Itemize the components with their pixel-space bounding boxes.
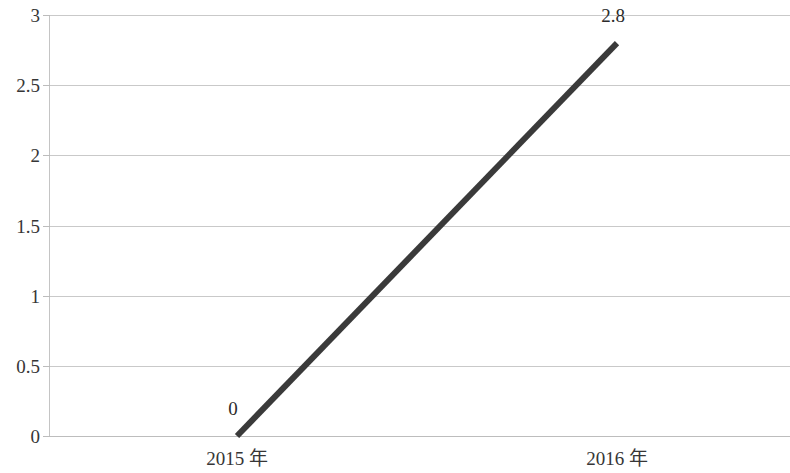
y-axis-tick-label-1-5: 1.5 xyxy=(16,217,40,236)
data-label-2016: 2.8 xyxy=(601,6,625,25)
gridline-0-baseline xyxy=(49,436,790,437)
plot-area: 3 2.5 2 1.5 1 0.5 0 0 2.8 2015 年 2016 年 xyxy=(0,0,790,473)
gridline-0-5 xyxy=(49,366,790,367)
y-axis-tick-label-2: 2 xyxy=(31,146,41,165)
y-axis-tick-label-2-5: 2.5 xyxy=(16,76,40,95)
gridline-3 xyxy=(49,15,790,16)
gridline-1 xyxy=(49,296,790,297)
y-axis-tick-label-1: 1 xyxy=(31,287,41,306)
y-tick-mark-2-5 xyxy=(43,85,50,86)
y-axis-tick-label-0-5: 0.5 xyxy=(16,357,40,376)
y-axis-tick-label-3: 3 xyxy=(31,6,41,25)
gridline-2 xyxy=(49,155,790,156)
x-axis-tick-label-2016: 2016 年 xyxy=(586,448,648,470)
y-tick-mark-0-5 xyxy=(43,366,50,367)
y-tick-mark-0 xyxy=(43,436,50,437)
y-axis-tick-label-0: 0 xyxy=(31,427,41,446)
gridline-2-5 xyxy=(49,85,790,86)
x-axis-tick-label-2015: 2015 年 xyxy=(206,448,268,470)
line-chart: 3 2.5 2 1.5 1 0.5 0 0 2.8 2015 年 2016 年 xyxy=(0,0,790,473)
gridline-1-5 xyxy=(49,226,790,227)
y-tick-mark-3 xyxy=(43,15,50,16)
y-tick-mark-2 xyxy=(43,155,50,156)
data-label-2015: 0 xyxy=(228,399,238,418)
y-tick-mark-1-5 xyxy=(43,226,50,227)
y-tick-mark-1 xyxy=(43,296,50,297)
series-line xyxy=(0,0,790,473)
